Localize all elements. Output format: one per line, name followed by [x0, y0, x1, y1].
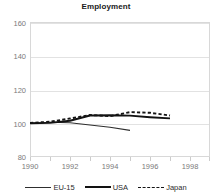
chart-title: Employment: [0, 2, 212, 11]
x-axis-label-1994: 1994: [93, 162, 127, 171]
x-tick-1994: [110, 157, 111, 161]
chart-legend: EU-15 USA Japan: [0, 180, 212, 194]
y-axis-label-140: 140: [4, 52, 26, 61]
legend-swatch-usa-icon: [85, 186, 111, 188]
employment-chart: Employment 160 140 120 100 80 1990 1992 …: [0, 0, 212, 196]
x-tick-1991: [50, 157, 51, 161]
legend-swatch-japan-icon: [138, 187, 164, 188]
x-tick-1990: [30, 157, 31, 161]
legend-item-japan: Japan: [138, 183, 186, 192]
y-axis-label-100: 100: [4, 120, 26, 129]
legend-label-eu15: EU-15: [53, 183, 74, 192]
legend-item-eu15: EU-15: [25, 183, 74, 192]
legend-swatch-eu15-icon: [25, 187, 51, 188]
y-axis-label-120: 120: [4, 86, 26, 95]
x-axis-label-1996: 1996: [133, 162, 167, 171]
series-lines: [30, 22, 210, 157]
x-tick-1997: [170, 157, 171, 161]
x-axis-label-1990: 1990: [13, 162, 47, 171]
x-tick-1998: [190, 157, 191, 161]
x-tick-1993: [90, 157, 91, 161]
legend-label-usa: USA: [113, 183, 128, 192]
legend-label-japan: Japan: [166, 183, 186, 192]
y-axis-label-80: 80: [4, 153, 26, 162]
x-tick-1995: [130, 157, 131, 161]
x-axis-label-1998: 1998: [173, 162, 207, 171]
x-tick-1992: [70, 157, 71, 161]
x-axis-label-1992: 1992: [53, 162, 87, 171]
x-tick-1996: [150, 157, 151, 161]
y-axis-label-160: 160: [4, 19, 26, 28]
legend-item-usa: USA: [85, 183, 128, 192]
x-tick-1999: [209, 157, 210, 161]
